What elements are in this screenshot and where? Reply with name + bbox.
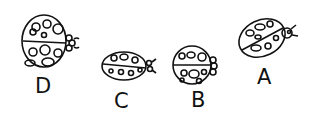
label-c: C [114,91,129,112]
ladybug-d-icon [22,15,79,67]
label-a: A [257,67,271,88]
ladybug-figure: D C B A [0,0,314,121]
label-d: D [35,76,51,97]
ladybug-a-icon [233,12,298,65]
ladybug-b-icon [173,46,217,84]
ladybugs-drawing [0,0,314,121]
ladybug-c-icon [102,52,156,80]
label-b: B [191,90,205,111]
